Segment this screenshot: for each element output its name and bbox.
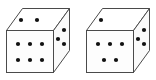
right-die-right-pip-2 [136,37,140,41]
left-die-front-pip-1 [16,42,20,46]
left-die-front-pip-6 [40,58,44,62]
dice-svg-canvas [0,0,156,80]
left-die-top-pip-1 [19,18,23,22]
right-die-front-pip-1 [96,42,100,46]
left-die-right-pip-1 [62,28,66,32]
right-die-front-face [87,31,134,73]
left-die [7,9,70,73]
left-die-front-pip-2 [28,42,32,46]
right-die-front-pip-2 [108,42,112,46]
left-die-top-pip-2 [35,18,39,22]
right-die-top-pip-1 [99,18,103,22]
left-die-right-pip-3 [62,42,66,46]
right-die-front-pip-3 [120,42,124,46]
left-die-front-face [7,31,54,73]
right-die-front-pip-4 [102,58,106,62]
left-die-front-pip-5 [28,58,32,62]
left-die-right-pip-2 [56,37,60,41]
left-die-front-pip-3 [40,42,44,46]
right-die-right-pip-1 [142,28,146,32]
right-die-right-pip-3 [142,42,146,46]
left-die-front-pip-4 [16,58,20,62]
right-die-front-pip-5 [114,58,118,62]
right-die [87,9,150,73]
dice-illustration [0,0,156,80]
